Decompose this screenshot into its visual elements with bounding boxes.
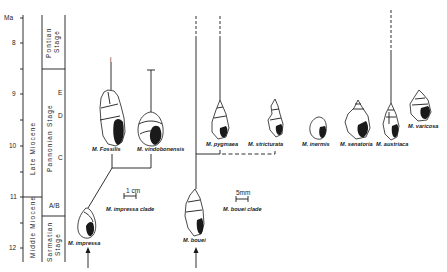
shell-senatoria <box>345 100 370 139</box>
scale-bar-cm: 1 cm <box>124 187 140 199</box>
svg-text:i: i <box>110 56 111 63</box>
pontian-stage-label: Stage <box>53 30 61 53</box>
label-impressa: M. impressa <box>68 240 100 246</box>
shell-varicosa <box>410 90 431 121</box>
zone-d: D <box>58 112 63 119</box>
middle-miocene-label: Middle Miocene <box>29 196 36 258</box>
label-austriaca: M. austriaca <box>376 141 408 147</box>
axis-unit-label: Ma <box>4 14 13 21</box>
late-miocene-label: Late Miocene <box>29 122 36 175</box>
label-inermis: M. inermis <box>302 141 330 147</box>
shell-pygmaea <box>212 100 229 139</box>
label-varicosa: M. varicosa <box>408 123 438 129</box>
tick-11: 11 <box>10 193 17 200</box>
tick-8: 8 <box>12 39 16 46</box>
sarmatian-label: Sarmatian <box>46 222 53 262</box>
zone-ab: A/B <box>49 202 59 209</box>
shell-vindobonensis <box>138 112 163 146</box>
shell-stricturata <box>268 99 283 137</box>
label-vindobonensis: M. vindobonensis <box>137 146 184 152</box>
shell-inermis <box>310 117 327 139</box>
scale-bar-mm: 5mm <box>236 189 250 202</box>
shell-bouei <box>185 189 204 236</box>
label-stricturata: M. stricturata <box>248 141 283 147</box>
pannonian-label: Pannonian Stage <box>46 104 54 172</box>
shell-austriaca <box>383 103 399 140</box>
shell-fossilis <box>100 90 125 146</box>
arrow-up-icon <box>194 247 199 253</box>
stage-column: Pontian Stage Pannonian Stage E D C A/B … <box>42 15 65 262</box>
label-pygmaea: M. pygmaea <box>206 141 238 147</box>
tick-9: 9 <box>12 90 16 97</box>
arrow-up-icon <box>86 247 91 253</box>
stratigraphic-phylogeny-diagram: Ma 8 9 10 11 12 Late Miocene Middle Mioc… <box>0 0 447 272</box>
other-species: M. inermis M. senatoria M. austriaca M. … <box>302 10 438 147</box>
label-senatoria: M. senatoria <box>340 141 373 147</box>
label-bouei-clade: M. bouei clade <box>223 206 262 212</box>
tick-12: 12 <box>9 244 17 251</box>
sarmatian-stage-label: Stage <box>54 233 62 256</box>
zone-c: C <box>58 154 63 161</box>
bouei-clade: M. bouei M. pygmaea M. stricturata 5mm <box>183 14 283 268</box>
epoch-column: Late Miocene Middle Miocene <box>23 15 42 262</box>
time-axis: Ma 8 9 10 11 12 <box>4 14 23 262</box>
shell-impressa <box>78 208 96 238</box>
label-impressa-clade: M. impressa clade <box>106 206 154 212</box>
zone-e: E <box>58 89 63 96</box>
label-bouei: M. bouei <box>183 237 206 243</box>
tick-10: 10 <box>9 142 17 149</box>
impressa-clade: M. impressa i M. Fossilis M. vindobonens… <box>68 56 184 268</box>
svg-text:5mm: 5mm <box>236 189 250 196</box>
svg-text:1 cm: 1 cm <box>126 187 140 194</box>
pontian-label: Pontian <box>45 28 52 58</box>
label-fossilis: M. Fossilis <box>92 146 121 152</box>
